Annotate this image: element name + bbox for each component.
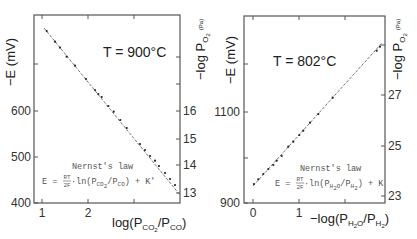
svg-text:−log PO2(Pa): −log PO2(Pa) <box>390 19 408 80</box>
right-plot-frame <box>244 16 385 203</box>
right-temperature-label: T = 802°C <box>273 53 336 69</box>
right-y-axis-label: −E (mV) <box>223 36 238 84</box>
left-y2-tick-label: 14 <box>183 158 197 172</box>
left-y2-tick-label: 15 <box>183 132 197 146</box>
left-x-tick-label: 2 <box>85 206 92 220</box>
svg-text:·ln(PCO2/PCO) + K': ·ln(PCO2/PCO) + K' <box>71 177 155 190</box>
left-y-axis-label: −E (mV) <box>3 38 18 86</box>
right-chart: 900 1100 −E (mV) 23 25 27 −log PO2(Pa) 0… <box>214 16 408 229</box>
left-y-tick-label: 400 <box>11 196 31 210</box>
left-law-title: Nernst's law <box>72 162 134 172</box>
right-x-axis-label: −log(PH2O/PH2) <box>310 211 389 229</box>
svg-text:·ln(PH2O/PH2) + K: ·ln(PH2O/PH2) + K <box>304 179 384 192</box>
svg-text:−log PO2(Pa): −log PO2(Pa) <box>193 19 211 80</box>
left-x-axis-label: log(PCO2/PCO) <box>112 215 186 233</box>
right-y-tick-label: 900 <box>220 196 240 210</box>
right-x-tick-label: 1 <box>296 206 303 220</box>
svg-text:E =: E = <box>275 179 290 189</box>
right-y2-tick-label: 27 <box>388 88 402 102</box>
left-y2-axis-label: −log PO2(Pa) <box>193 19 211 80</box>
right-law-title: Nernst's law <box>300 164 362 174</box>
left-y2-tick-label: 13 <box>183 186 197 200</box>
right-y2-axis-label: −log PO2(Pa) <box>390 19 408 80</box>
left-law-equation: E = RT 2F ·ln(PCO2/PCO) + K' <box>42 174 155 190</box>
right-y2-tick-label: 25 <box>388 139 402 153</box>
svg-text:2F: 2F <box>63 182 71 189</box>
svg-text:E =: E = <box>42 177 57 187</box>
left-x-tick-label: 1 <box>39 206 46 220</box>
right-y-tick-label: 1100 <box>214 105 240 119</box>
svg-text:2F: 2F <box>296 184 304 191</box>
right-x-tick-label: 0 <box>250 206 257 220</box>
left-y-tick-label: 500 <box>11 150 31 164</box>
svg-text:RT: RT <box>63 174 71 181</box>
right-law-equation: E = RT 2F ·ln(PH2O/PH2) + K <box>275 176 384 192</box>
left-temperature-label: T = 900°C <box>103 44 166 60</box>
figure: 400 500 600 −E (mV) 13 14 15 16 −log PO2… <box>0 0 417 239</box>
right-y2-tick-label: 23 <box>388 189 402 203</box>
svg-text:RT: RT <box>296 176 304 183</box>
left-y-tick-label: 600 <box>11 104 31 118</box>
left-chart: 400 500 600 −E (mV) 13 14 15 16 −log PO2… <box>3 15 211 233</box>
left-y2-tick-label: 16 <box>183 104 197 118</box>
